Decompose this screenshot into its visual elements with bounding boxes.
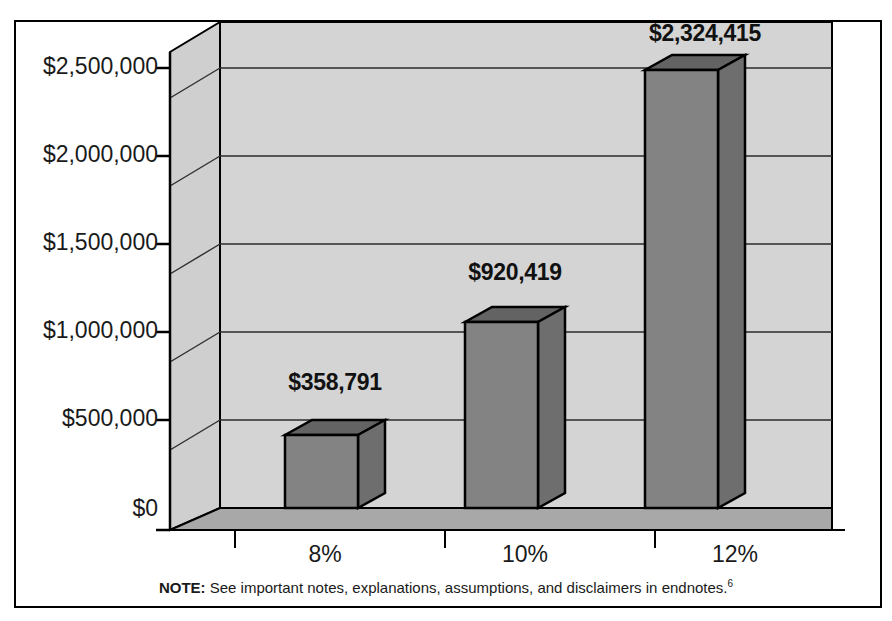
bar-value-label-8-percent: $358,791 [245, 371, 425, 394]
bar-side-face [358, 420, 385, 508]
bar-side-face [718, 55, 745, 508]
y-axis-labels: $0 $500,000 $1,000,000 $1,500,000 $2,000… [18, 0, 158, 621]
footnote-text: See important notes, explanations, assum… [206, 579, 728, 596]
y-tick-label-2: $1,000,000 [43, 319, 158, 342]
chart-figure: $0 $500,000 $1,000,000 $1,500,000 $2,000… [0, 0, 892, 621]
bar-value-label-10-percent: $920,419 [425, 261, 605, 284]
floor-plane [170, 508, 832, 530]
y-tick-label-1: $500,000 [62, 407, 158, 430]
bar-10-percent[interactable] [465, 307, 565, 508]
bar-8-percent[interactable] [285, 420, 385, 508]
bar-value-label-12-percent: $2,324,415 [600, 22, 810, 45]
x-tick-label-10-percent: 10% [475, 543, 575, 566]
y-tick-label-5: $2,500,000 [43, 55, 158, 78]
y-tick-label-4: $2,000,000 [43, 143, 158, 166]
footnote-label: NOTE: [159, 579, 206, 596]
bar-front-face [285, 435, 358, 508]
y-axis [156, 52, 170, 530]
footnote-superscript: 6 [728, 578, 734, 589]
footnote: NOTE: See important notes, explanations,… [0, 578, 892, 596]
y-tick-label-0: $0 [132, 497, 158, 520]
y-tick-label-3: $1,500,000 [43, 231, 158, 254]
side-wall [170, 22, 220, 530]
x-tick-label-12-percent: 12% [685, 543, 785, 566]
bar-front-face [465, 322, 538, 508]
x-tick-label-8-percent: 8% [275, 543, 375, 566]
bar-12-percent[interactable] [645, 55, 745, 508]
bar-front-face [645, 70, 718, 508]
bar-side-face [538, 307, 565, 508]
